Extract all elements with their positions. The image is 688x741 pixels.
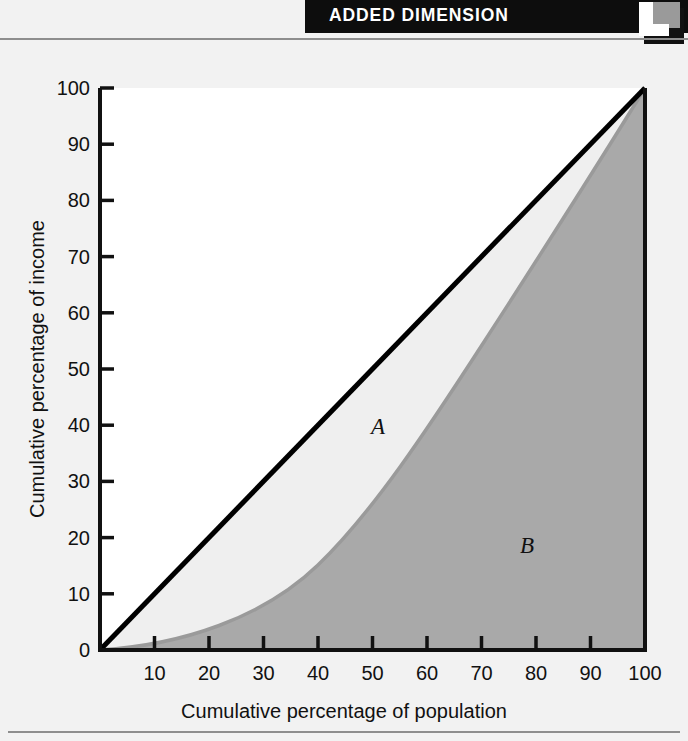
y-tick-label-90: 90 xyxy=(68,133,90,155)
x-tick-label-50: 50 xyxy=(361,662,383,684)
x-tick-label-90: 90 xyxy=(579,662,601,684)
y-tick-label-60: 60 xyxy=(68,302,90,324)
region-b-label: B xyxy=(520,533,534,558)
page-root: ADDED DIMENSION xyxy=(0,0,688,741)
x-tick-label-60: 60 xyxy=(416,662,438,684)
lorenz-curve-chart: 0 10 20 30 40 50 60 70 80 90 100 xyxy=(0,40,688,730)
x-tick-label-40: 40 xyxy=(307,662,329,684)
x-tick-label-70: 70 xyxy=(470,662,492,684)
banner-title: ADDED DIMENSION xyxy=(329,5,509,26)
x-tick-label-10: 10 xyxy=(143,662,165,684)
y-axis-tick-labels: 0 10 20 30 40 50 60 70 80 90 100 xyxy=(57,77,90,661)
x-tick-label-80: 80 xyxy=(525,662,547,684)
lorenz-curve-figure: 0 10 20 30 40 50 60 70 80 90 100 xyxy=(0,40,688,730)
x-tick-label-30: 30 xyxy=(252,662,274,684)
x-tick-label-100: 100 xyxy=(628,662,661,684)
y-tick-label-50: 50 xyxy=(68,358,90,380)
y-tick-label-0: 0 xyxy=(79,639,90,661)
x-axis-title: Cumulative percentage of population xyxy=(181,700,507,722)
x-tick-label-20: 20 xyxy=(198,662,220,684)
footer-divider-rule xyxy=(8,731,680,733)
logo-white-horizontal-shape xyxy=(639,24,669,36)
y-tick-label-80: 80 xyxy=(68,189,90,211)
region-a-label: A xyxy=(369,414,386,439)
y-tick-label-10: 10 xyxy=(68,583,90,605)
y-tick-label-20: 20 xyxy=(68,527,90,549)
y-tick-label-70: 70 xyxy=(68,246,90,268)
x-axis-tick-labels: 10 20 30 40 50 60 70 80 90 100 xyxy=(143,662,661,684)
y-tick-label-100: 100 xyxy=(57,77,90,99)
y-tick-label-40: 40 xyxy=(68,414,90,436)
y-axis-title: Cumulative percentage of income xyxy=(26,220,48,518)
y-tick-label-30: 30 xyxy=(68,470,90,492)
